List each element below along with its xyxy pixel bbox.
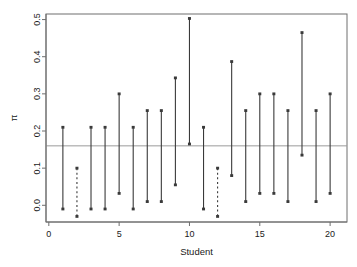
interval-plot: 05101520 0.00.10.20.30.40.5 Student π: [0, 0, 357, 267]
y-tick-label: 0.0: [32, 199, 42, 212]
y-tick-label: 0.3: [32, 88, 42, 101]
y-tick-label: 0.4: [32, 50, 42, 63]
x-tick-label: 10: [184, 229, 194, 239]
y-tick-label: 0.1: [32, 162, 42, 175]
x-axis-title: Student: [180, 246, 213, 257]
y-tick-label: 0.2: [32, 125, 42, 138]
x-tick-label: 0: [46, 229, 51, 239]
y-axis-title: π: [8, 114, 19, 121]
x-tick-label: 20: [325, 229, 335, 239]
x-tick-label: 15: [255, 229, 265, 239]
y-tick-label: 0.5: [32, 13, 42, 26]
chart-container: 05101520 0.00.10.20.30.40.5 Student π: [0, 0, 357, 267]
x-tick-label: 5: [117, 229, 122, 239]
chart-background: [0, 0, 357, 267]
